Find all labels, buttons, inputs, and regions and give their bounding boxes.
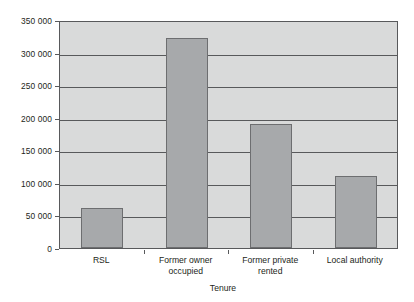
y-tick-label: 350 000	[21, 17, 52, 25]
bar-chart-figure: 350 000 300 000 250 000 200 000 150 000 …	[0, 0, 414, 302]
x-cat-label-former-private-rented: Former private rented	[228, 255, 313, 276]
y-tick-label: 50 000	[26, 212, 52, 220]
plot-area	[59, 21, 398, 249]
x-cat-label-rsl: RSL	[59, 255, 144, 266]
bar-slot-rsl	[60, 22, 145, 248]
bar-former-owner-occupied[interactable]	[166, 38, 208, 248]
bar-slot-local-authority	[314, 22, 399, 248]
x-cat-label-line: Former private	[228, 255, 313, 266]
y-tick-label: 300 000	[21, 50, 52, 58]
bar-slot-former-private-rented	[229, 22, 314, 248]
bar-slot-former-owner-occupied	[145, 22, 230, 248]
x-tick-mark	[228, 250, 229, 254]
x-cat-label-former-owner-occupied: Former owner occupied	[144, 255, 229, 276]
x-cat-label-line: rented	[228, 266, 313, 277]
x-cat-label-line: Former owner	[144, 255, 229, 266]
bar-former-private-rented[interactable]	[250, 124, 292, 248]
x-cat-label-line: occupied	[144, 266, 229, 277]
bar-local-authority[interactable]	[335, 176, 377, 248]
y-tick-label: 200 000	[21, 115, 52, 123]
y-tick-label: 250 000	[21, 82, 52, 90]
x-axis-title: Tenure	[0, 283, 414, 293]
x-cat-label-line: Local authority	[313, 255, 398, 266]
x-tick-mark	[313, 250, 314, 254]
x-cat-label-local-authority: Local authority	[313, 255, 398, 266]
x-axis-title-text: Tenure	[210, 283, 236, 293]
y-tick-label: 100 000	[21, 180, 52, 188]
y-tick-label: 150 000	[21, 147, 52, 155]
bar-rsl[interactable]	[81, 208, 123, 248]
x-cat-label-line: RSL	[59, 255, 144, 266]
x-tick-mark	[144, 250, 145, 254]
y-tick-label: 0	[47, 245, 52, 253]
y-tick-mark	[55, 249, 59, 250]
